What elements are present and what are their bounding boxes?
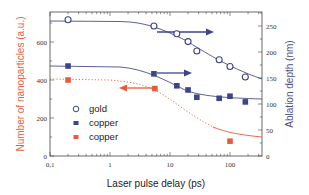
legend-copper-blue-label: copper [89, 117, 118, 128]
right-y-tick-label: 200 [266, 49, 277, 57]
gold-fit-curve [50, 21, 262, 79]
data-point-copper [227, 93, 233, 99]
right-y-axis-label: Ablation depth (nm) [284, 40, 295, 127]
left-y-axis-label: Number of nanoparticles (a.u.) [15, 16, 26, 151]
left-y-tick-label: 200 [37, 115, 48, 123]
left-y-tick-label: 0 [44, 153, 48, 161]
arrow-left-copper-red [119, 85, 154, 92]
legend-copper-blue-marker-icon [74, 121, 79, 125]
legend-copper-red-marker-icon [74, 135, 79, 139]
legend-gold-marker-icon [73, 106, 79, 112]
right-y-tick-label: 100 [266, 101, 277, 109]
chart: 0,1110100 0200400600 050100150200250 gol… [0, 0, 309, 195]
legend-gold-label: gold [89, 103, 107, 114]
copper-red-dotted-curve [50, 79, 215, 128]
data-point-copper [194, 94, 200, 100]
right-y-tick-label: 250 [266, 23, 277, 31]
arrow-right-gold [157, 29, 214, 36]
data-point-gold [65, 17, 71, 23]
x-axis-label: Laser pulse delay (ps) [107, 178, 205, 189]
copper-red-fit-curve [213, 127, 262, 137]
x-tick-label: 1 [108, 161, 112, 169]
data-point-gold [185, 39, 191, 45]
right-y-tick-label: 150 [266, 75, 277, 83]
legend-copper-red-label: copper [89, 131, 118, 142]
data-point-copper [216, 95, 222, 101]
data-point-gold [242, 74, 248, 80]
legend: gold copper copper [73, 103, 118, 142]
x-tick-label: 0,1 [46, 161, 55, 169]
data-point-gold [194, 48, 200, 54]
data-point-copper [65, 63, 71, 69]
data-point-gold [174, 31, 180, 37]
plot-frame [50, 12, 262, 156]
right-y-tick-label: 50 [266, 127, 274, 135]
x-tick-label: 100 [225, 161, 236, 169]
data-point-copper [227, 138, 233, 144]
data-point-copper [185, 87, 191, 93]
arrow-right-copper-blue [157, 70, 192, 77]
right-y-tick-label: 0 [266, 153, 270, 161]
left-y-tick-label: 600 [37, 39, 48, 47]
right-y-axis-ticks: 050100150200250 [258, 13, 277, 161]
data-point-copper [65, 77, 71, 83]
data-point-copper [174, 83, 180, 89]
data-point-gold [151, 23, 157, 29]
data-point-gold [216, 57, 222, 63]
data-point-copper [151, 71, 157, 77]
data-point-copper [152, 86, 158, 92]
left-y-tick-label: 400 [37, 77, 48, 85]
data-point-copper [243, 99, 249, 105]
x-tick-label: 10 [167, 161, 175, 169]
data-point-gold [227, 64, 233, 70]
left-y-axis-ticks: 0200400600 [37, 23, 55, 161]
